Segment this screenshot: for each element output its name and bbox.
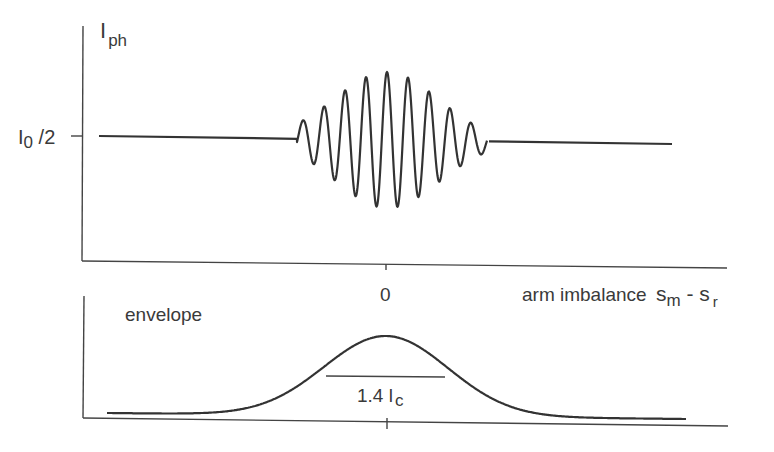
fwhm-label-sub: c	[395, 391, 404, 410]
fwhm-bar	[326, 376, 445, 377]
x-axis-label-s1-sub: m	[666, 291, 680, 310]
top-x-axis	[82, 261, 727, 268]
y-tick-label-rest: /2	[33, 126, 55, 148]
bottom-y-axis	[83, 296, 84, 418]
y-tick-label-main: I	[18, 126, 24, 148]
envelope-title: envelope	[125, 305, 202, 324]
x-tick-label-zero: 0	[380, 285, 391, 304]
y-axis-label-sub: ph	[108, 31, 127, 50]
top-y-axis	[82, 26, 83, 261]
x-axis-label: arm imbalance sm - sr	[522, 283, 718, 304]
y-axis-label: Iph	[100, 20, 127, 42]
fwhm-label: 1.4 lc	[357, 386, 403, 405]
interferogram-curve	[99, 72, 672, 207]
fwhm-label-main: 1.4 l	[357, 385, 393, 406]
x-axis-label-s2-sub: r	[713, 293, 718, 310]
y-axis-label-main: I	[100, 18, 106, 43]
x-axis-label-dash: - s	[681, 282, 710, 305]
y-tick-label-sub: 0	[24, 133, 33, 152]
x-axis-label-s1: s	[656, 282, 667, 305]
y-tick-label: I0 /2	[18, 127, 55, 147]
x-axis-label-text: arm imbalance	[522, 284, 647, 305]
